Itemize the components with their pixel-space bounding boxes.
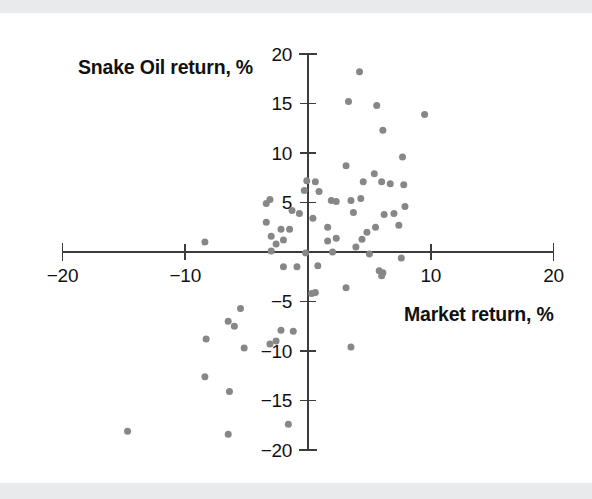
data-point bbox=[201, 373, 208, 380]
data-point bbox=[401, 203, 408, 210]
data-point bbox=[366, 250, 373, 257]
data-point bbox=[303, 177, 310, 184]
data-point bbox=[329, 249, 336, 256]
data-point bbox=[363, 229, 370, 236]
data-point bbox=[387, 180, 394, 187]
data-point bbox=[345, 98, 352, 105]
data-point bbox=[373, 102, 380, 109]
data-point bbox=[390, 210, 397, 217]
data-point bbox=[302, 249, 309, 256]
data-point bbox=[352, 244, 359, 251]
data-point bbox=[316, 188, 323, 195]
data-point bbox=[314, 262, 321, 269]
data-point bbox=[268, 248, 275, 255]
data-point bbox=[231, 323, 238, 330]
y-tick-label: −15 bbox=[261, 390, 292, 411]
data-point bbox=[290, 328, 297, 335]
data-point bbox=[379, 127, 386, 134]
data-point bbox=[398, 254, 405, 261]
data-point bbox=[400, 181, 407, 188]
data-point bbox=[350, 209, 357, 216]
data-point bbox=[285, 421, 292, 428]
data-point bbox=[357, 195, 364, 202]
data-point bbox=[296, 210, 303, 217]
data-point bbox=[343, 284, 350, 291]
y-tick-label: −20 bbox=[261, 440, 292, 461]
data-point bbox=[378, 178, 385, 185]
data-point bbox=[293, 263, 300, 270]
y-axis-title: Snake Oil return, % bbox=[78, 56, 253, 79]
y-tick-label: −5 bbox=[271, 291, 292, 312]
data-point bbox=[312, 289, 319, 296]
data-point bbox=[399, 153, 406, 160]
data-point bbox=[266, 341, 273, 348]
data-point bbox=[309, 215, 316, 222]
data-point bbox=[280, 237, 287, 244]
x-tick-label: −10 bbox=[170, 265, 201, 286]
data-point bbox=[312, 178, 319, 185]
x-tick-label: 20 bbox=[543, 265, 564, 286]
data-point bbox=[347, 197, 354, 204]
data-point bbox=[372, 224, 379, 231]
data-point bbox=[201, 239, 208, 246]
data-point bbox=[237, 305, 244, 312]
x-tick-label: 10 bbox=[420, 265, 441, 286]
data-point bbox=[226, 388, 233, 395]
data-point bbox=[395, 222, 402, 229]
data-points-group bbox=[124, 68, 428, 437]
data-point bbox=[263, 200, 270, 207]
data-point bbox=[241, 345, 248, 352]
scatter-chart-figure: −20−1010202015105−5−10−15−20 Snake Oil r… bbox=[0, 13, 592, 483]
data-point bbox=[280, 263, 287, 270]
x-axis-title: Market return, % bbox=[404, 303, 554, 326]
data-point bbox=[263, 219, 270, 226]
data-point bbox=[333, 235, 340, 242]
data-point bbox=[301, 187, 308, 194]
data-point bbox=[378, 272, 385, 279]
data-point bbox=[225, 431, 232, 438]
data-point bbox=[356, 68, 363, 75]
data-point bbox=[203, 336, 210, 343]
data-point bbox=[347, 344, 354, 351]
y-tick-label: 15 bbox=[271, 93, 292, 114]
data-point bbox=[360, 178, 367, 185]
data-point bbox=[225, 318, 232, 325]
data-point bbox=[273, 338, 280, 345]
y-tick-label: 10 bbox=[271, 143, 292, 164]
data-point bbox=[421, 111, 428, 118]
data-point bbox=[324, 224, 331, 231]
data-point bbox=[324, 238, 331, 245]
data-point bbox=[371, 170, 378, 177]
data-point bbox=[343, 162, 350, 169]
x-tick-label: −20 bbox=[47, 265, 78, 286]
data-point bbox=[268, 233, 275, 240]
data-point bbox=[124, 428, 131, 435]
data-point bbox=[359, 236, 366, 243]
data-point bbox=[289, 207, 296, 214]
data-point bbox=[381, 211, 388, 218]
data-point bbox=[278, 327, 285, 334]
data-point bbox=[278, 226, 285, 233]
data-point bbox=[333, 198, 340, 205]
y-tick-label: 20 bbox=[271, 44, 292, 65]
data-point bbox=[286, 226, 293, 233]
data-point bbox=[273, 241, 280, 248]
